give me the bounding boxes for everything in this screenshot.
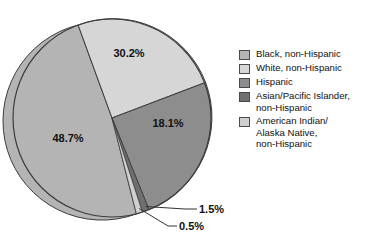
legend-item-american-indian-alaska-native[interactable]: American Indian/ Alaska Native, non-Hisp…	[239, 115, 371, 150]
legend-swatch-icon-black-non-hispanic	[239, 50, 250, 60]
callout-label-american-indian: 0.5%	[179, 220, 204, 232]
legend-item-black-non-hispanic[interactable]: Black, non-Hispanic	[239, 48, 371, 60]
slice-label-black-non-hispanic: 48.7%	[52, 132, 83, 144]
legend-swatch-icon-white-non-hispanic	[239, 64, 250, 74]
legend-label-american-indian-alaska-native: American Indian/ Alaska Native, non-Hisp…	[256, 115, 328, 150]
legend-label-hispanic: Hispanic	[256, 76, 293, 88]
slice-label-white-non-hispanic: 30.2%	[113, 47, 144, 59]
legend-swatch-icon-hispanic	[239, 78, 250, 88]
callout-label-asian-pacific-islander: 1.5%	[199, 203, 224, 215]
legend-item-hispanic[interactable]: Hispanic	[239, 76, 371, 88]
pie-chart-figure: 30.2% 18.1% 48.7% 1.5% 0.5% Black, non-H…	[0, 0, 371, 241]
legend-item-asian-pacific-islander[interactable]: Asian/Pacific Islander, non-Hispanic	[239, 90, 371, 113]
legend-label-black-non-hispanic: Black, non-Hispanic	[256, 48, 341, 60]
legend-swatch-icon-asian-pacific-islander	[239, 92, 250, 102]
legend: Black, non-Hispanic White, non-Hispanic …	[239, 48, 371, 152]
slice-label-hispanic: 18.1%	[152, 117, 183, 129]
legend-label-white-non-hispanic: White, non-Hispanic	[256, 62, 342, 74]
legend-label-asian-pacific-islander: Asian/Pacific Islander, non-Hispanic	[256, 90, 350, 113]
legend-item-white-non-hispanic[interactable]: White, non-Hispanic	[239, 62, 371, 74]
legend-swatch-icon-american-indian-alaska-native	[239, 117, 250, 127]
